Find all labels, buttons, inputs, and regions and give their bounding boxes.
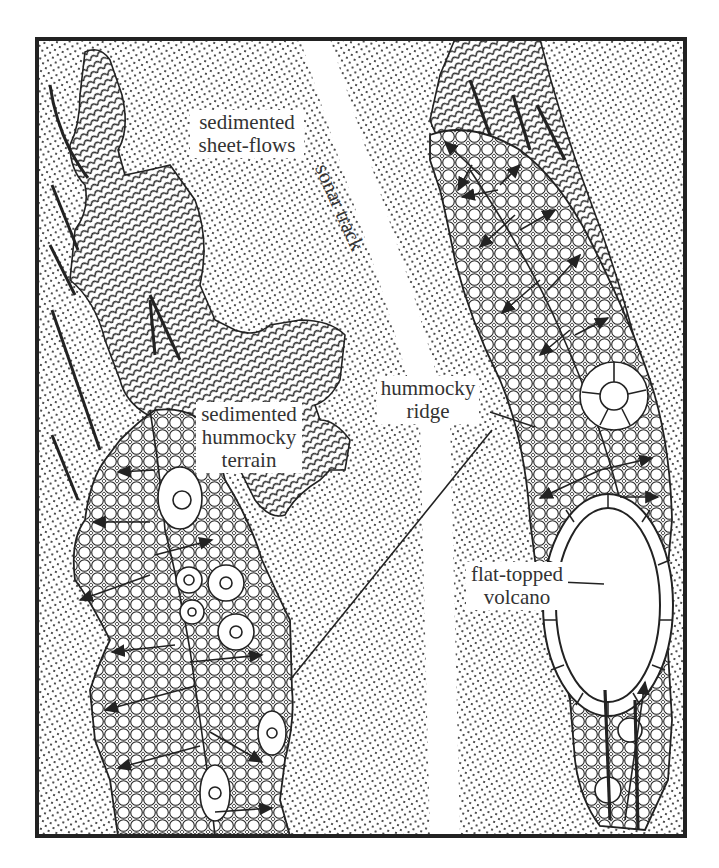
label-line: sedimented <box>193 111 301 134</box>
label-sedimented-hummocky-terrain: sedimented hummocky terrain <box>196 402 302 473</box>
map-canvas <box>0 0 719 868</box>
label-hummocky-ridge: hummocky ridge <box>377 376 479 424</box>
label-line: sedimented <box>199 403 299 426</box>
label-line: flat-topped <box>469 563 565 586</box>
label-sedimented-sheet-flows: sedimented sheet-flows <box>190 110 304 158</box>
label-flat-topped-volcano: flat-topped volcano <box>466 562 568 610</box>
label-line: sheet-flows <box>193 134 301 157</box>
label-line: hummocky <box>380 377 476 400</box>
label-line: hummocky <box>199 426 299 449</box>
label-line: volcano <box>469 586 565 609</box>
label-line: terrain <box>199 449 299 472</box>
label-line: ridge <box>380 400 476 423</box>
geologic-map: sedimented sheet-flows sonar track sedim… <box>0 0 719 868</box>
small-volcano <box>580 362 648 430</box>
